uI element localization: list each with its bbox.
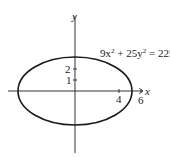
- eq-term-y: + 25y: [115, 47, 144, 59]
- x-tick-label-6: 6: [138, 94, 144, 106]
- equation-label: 9x2 + 25y2 = 225: [100, 47, 170, 59]
- x-axis-label: x: [144, 85, 150, 97]
- eq-rhs: = 225: [146, 47, 170, 59]
- x-tick-label-4: 4: [116, 93, 122, 105]
- ellipse-plot: y x 4 6 2 1 9x2 + 25y2 = 225: [0, 0, 170, 157]
- eq-term-x: 9x: [100, 47, 112, 59]
- y-tick-label-1: 1: [66, 74, 72, 86]
- y-axis-label: y: [71, 10, 77, 22]
